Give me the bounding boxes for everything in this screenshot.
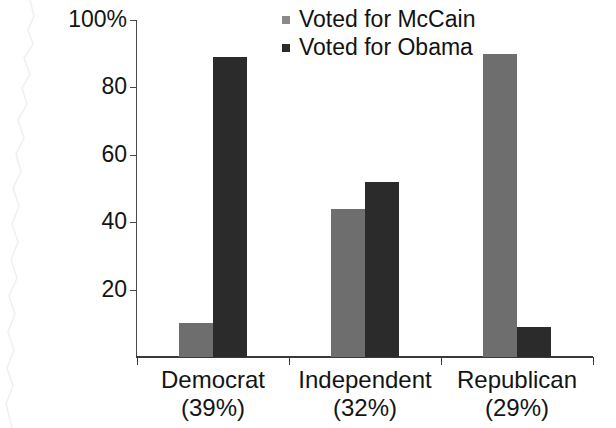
y-axis-tick-label-80: 80	[0, 75, 139, 98]
x-axis-label-share: (29%)	[417, 393, 616, 422]
y-axis-tick-label-100: 100%	[0, 8, 139, 31]
bar-democrat-voted-for-obama	[213, 57, 247, 357]
bar-independent-voted-for-mccain	[331, 209, 365, 357]
y-axis-tick-label-60: 60	[0, 143, 139, 166]
bar-independent-voted-for-obama	[365, 182, 399, 357]
bar-republican-voted-for-mccain	[483, 54, 517, 357]
y-axis-tick-label-40: 40	[0, 210, 139, 233]
bar-chart: Voted for McCain Voted for Obama 2040608…	[0, 0, 616, 428]
x-axis-label-name: Independent	[298, 366, 431, 393]
x-axis-label-name: Democrat	[161, 366, 265, 393]
bar-democrat-voted-for-mccain	[179, 323, 213, 357]
y-axis-tick-label-20: 20	[0, 278, 139, 301]
x-axis-tick-0	[137, 357, 138, 365]
x-axis-label-name: Republican	[457, 366, 577, 393]
x-axis-tick-2	[441, 357, 442, 365]
x-axis-tick-1	[289, 357, 290, 365]
bar-republican-voted-for-obama	[517, 327, 551, 357]
x-axis-label-republican: Republican(29%)	[417, 366, 616, 422]
x-axis-tick-3	[593, 357, 594, 365]
bars-container	[137, 20, 593, 357]
